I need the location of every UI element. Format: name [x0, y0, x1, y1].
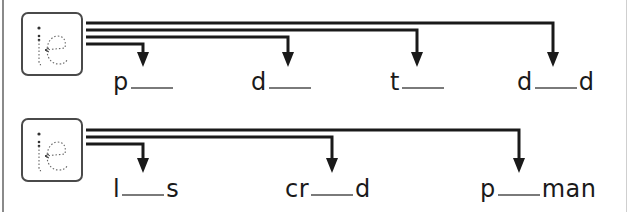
arrow-down-icon: [411, 52, 423, 67]
word-blank-2: d: [251, 70, 313, 94]
word-prefix: cr: [285, 177, 309, 201]
arrow-down-icon: [326, 158, 338, 173]
traced-letters-ie-icon: [23, 120, 81, 180]
fill-in-blank[interactable]: [535, 87, 577, 89]
connector-line-3: [86, 130, 519, 158]
letter-tile-ie: [21, 118, 83, 182]
word-prefix: d: [251, 70, 267, 94]
fill-in-blank[interactable]: [402, 87, 444, 89]
word-blank-3: t: [390, 70, 446, 94]
connector-line-3: [86, 30, 417, 52]
word-blank-5: ls: [113, 177, 179, 201]
word-suffix: d: [579, 70, 595, 94]
word-blank-6: crd: [285, 177, 371, 201]
word-suffix: s: [166, 177, 179, 201]
arrow-down-icon: [137, 52, 149, 67]
exercise-row-2: ls crd pman: [0, 106, 628, 212]
letter-tile-ie: [21, 12, 83, 76]
traced-letters-ie-icon: [23, 14, 81, 74]
fill-in-blank[interactable]: [131, 87, 173, 89]
exercise-row-1: p d t dd: [0, 0, 628, 106]
word-prefix: d: [517, 70, 533, 94]
word-suffix: man: [542, 177, 597, 201]
word-blank-1: p: [113, 70, 175, 94]
word-blank-7: pman: [480, 177, 597, 201]
word-prefix: t: [390, 70, 400, 94]
word-blank-4: dd: [517, 70, 594, 94]
connector-line-2: [86, 137, 332, 158]
fill-in-blank[interactable]: [269, 87, 311, 89]
word-prefix: p: [113, 70, 129, 94]
arrow-down-icon: [513, 158, 525, 173]
connector-line-1: [86, 44, 143, 52]
fill-in-blank[interactable]: [311, 194, 353, 196]
word-prefix: l: [113, 177, 120, 201]
connector-line-1: [86, 144, 143, 158]
fill-in-blank[interactable]: [498, 194, 540, 196]
fill-in-blank[interactable]: [122, 194, 164, 196]
word-suffix: d: [355, 177, 371, 201]
arrow-down-icon: [282, 52, 294, 67]
arrow-down-icon: [547, 52, 559, 67]
word-prefix: p: [480, 177, 496, 201]
arrow-down-icon: [137, 158, 149, 173]
